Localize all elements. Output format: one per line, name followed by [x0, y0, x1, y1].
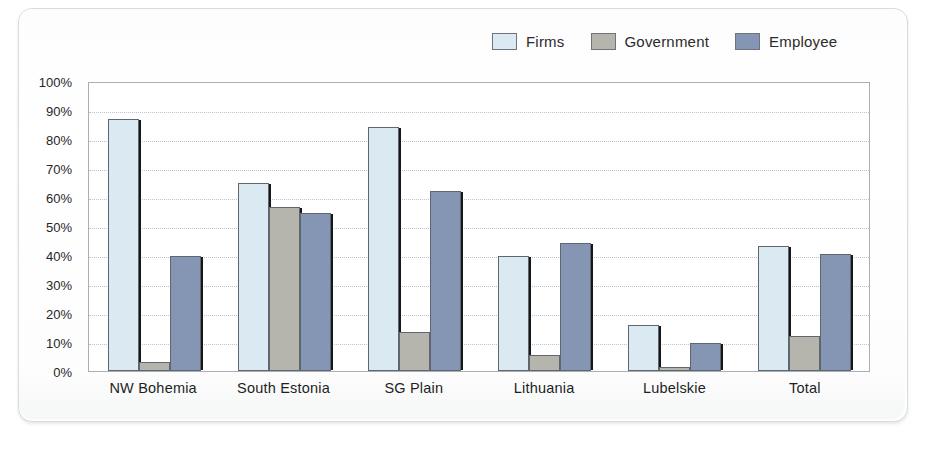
y-axis-tick-label: 30% — [46, 278, 72, 293]
bar-firms[interactable] — [238, 183, 269, 372]
legend-label: Government — [625, 33, 710, 50]
legend-label: Firms — [526, 33, 565, 50]
bar-group — [739, 83, 869, 371]
bar-government[interactable] — [139, 362, 170, 371]
chart-legend: FirmsGovernmentEmployee — [492, 33, 837, 50]
bar-government[interactable] — [659, 367, 690, 371]
y-axis-tick-label: 10% — [46, 336, 72, 351]
y-axis-tick-labels: 0%10%20%30%40%50%60%70%80%90%100% — [0, 82, 80, 372]
bar-employee[interactable] — [430, 191, 461, 371]
x-axis-category-label: Total — [740, 380, 870, 396]
bar-employee[interactable] — [560, 243, 591, 371]
y-axis-tick-label: 70% — [46, 162, 72, 177]
y-axis-tick-label: 80% — [46, 133, 72, 148]
bar-firms[interactable] — [628, 325, 659, 371]
y-axis-tick-label: 60% — [46, 191, 72, 206]
legend-swatch-icon — [735, 33, 760, 50]
bar-group-bars — [479, 83, 609, 371]
legend-swatch-icon — [492, 33, 517, 50]
y-axis-tick-label: 20% — [46, 307, 72, 322]
bar-groups — [89, 83, 869, 371]
bar-employee[interactable] — [690, 343, 721, 371]
bar-firms[interactable] — [368, 127, 399, 371]
plot-area — [88, 82, 870, 372]
bar-group — [219, 83, 349, 371]
x-axis-category-label: NW Bohemia — [88, 380, 218, 396]
y-axis-tick-label: 90% — [46, 104, 72, 119]
bar-government[interactable] — [399, 332, 430, 371]
bar-firms[interactable] — [108, 119, 139, 371]
bar-employee[interactable] — [820, 254, 851, 371]
y-axis-tick-label: 40% — [46, 249, 72, 264]
legend-item-firms[interactable]: Firms — [492, 33, 565, 50]
bar-government[interactable] — [529, 355, 560, 371]
bar-group-bars — [89, 83, 219, 371]
bar-government[interactable] — [789, 336, 820, 371]
bar-group-bars — [219, 83, 349, 371]
x-axis-category-label: Lubelskie — [609, 380, 739, 396]
legend-item-government[interactable]: Government — [591, 33, 710, 50]
bar-employee[interactable] — [170, 256, 201, 371]
x-axis-category-label: South Estonia — [218, 380, 348, 396]
bar-firms[interactable] — [498, 256, 529, 371]
bar-group — [349, 83, 479, 371]
bar-group — [89, 83, 219, 371]
figure-root: FirmsGovernmentEmployee 0%10%20%30%40%50… — [0, 0, 930, 456]
bar-group-bars — [609, 83, 739, 371]
legend-swatch-icon — [591, 33, 616, 50]
y-axis-tick-label: 100% — [39, 75, 72, 90]
bar-group-bars — [349, 83, 479, 371]
y-axis-tick-label: 50% — [46, 220, 72, 235]
bar-group — [479, 83, 609, 371]
legend-item-employee[interactable]: Employee — [735, 33, 837, 50]
x-axis-category-label: SG Plain — [349, 380, 479, 396]
legend-label: Employee — [769, 33, 837, 50]
x-axis-category-labels: NW BohemiaSouth EstoniaSG PlainLithuania… — [88, 380, 870, 396]
plot-area-wrapper — [88, 82, 870, 372]
x-axis-category-label: Lithuania — [479, 380, 609, 396]
bar-firms[interactable] — [758, 246, 789, 371]
bar-group-bars — [739, 83, 869, 371]
bar-government[interactable] — [269, 207, 300, 371]
bar-group — [609, 83, 739, 371]
y-axis-tick-label: 0% — [53, 365, 72, 380]
bar-employee[interactable] — [300, 213, 331, 371]
